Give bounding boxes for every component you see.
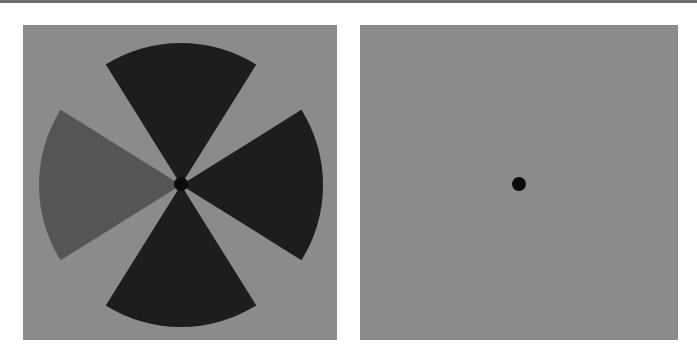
panel-right-grain <box>360 25 678 340</box>
blank-field-graphic <box>360 25 678 340</box>
panel-left-grain <box>23 25 337 340</box>
figure-root: Sectored disk stimulus Blank field with … <box>0 0 697 362</box>
stimulus-panel-left: Sectored disk stimulus <box>23 25 337 340</box>
top-divider-rule <box>0 0 697 3</box>
sectored-disk-graphic <box>23 25 337 340</box>
blank-panel-right: Blank field with fixation dot <box>360 25 678 340</box>
